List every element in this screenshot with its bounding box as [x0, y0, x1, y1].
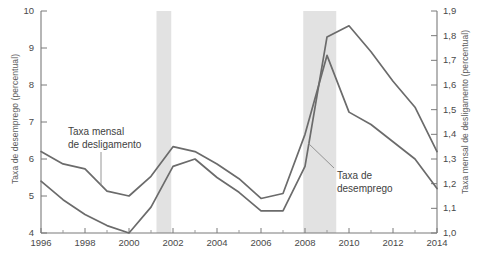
y-axis-left-tick-label: 6: [12, 153, 34, 164]
annotation-separation-rate-line2: de desligamento: [68, 139, 141, 152]
annotation-separation-rate-line1: Taxa mensal: [68, 126, 141, 139]
x-axis-tick-label: 2006: [241, 237, 281, 248]
y-axis-right-tick-label: 1,9: [443, 5, 469, 16]
x-axis-tick-label: 2008: [285, 237, 325, 248]
recession-2001-band: [157, 11, 172, 233]
y-axis-left-tick-label: 7: [12, 116, 34, 127]
x-axis-tick-label: 2012: [373, 237, 413, 248]
y-axis-left-tick-label: 5: [12, 190, 34, 201]
y-axis-right-tick-label: 1,1: [443, 202, 469, 213]
x-axis-tick-label: 2010: [329, 237, 369, 248]
annotation-unemployment-rate: Taxa dedesemprego: [337, 170, 393, 195]
annotation-unemployment-rate-line1: Taxa de: [337, 170, 393, 183]
x-axis-tick-label: 1998: [65, 237, 105, 248]
annotation-separation-rate: Taxa mensalde desligamento: [68, 126, 141, 151]
annotation-unemployment-rate-line2: desemprego: [337, 183, 393, 196]
chart-figure: Taxa de desemprego (percentual) Taxa men…: [0, 0, 480, 256]
x-axis-tick-label: 2000: [109, 237, 149, 248]
y-axis-left-tick-label: 10: [12, 5, 34, 16]
y-axis-right-tick-label: 1,8: [443, 30, 469, 41]
x-axis-tick-label: 2002: [153, 237, 193, 248]
y-axis-right-tick-label: 1,5: [443, 104, 469, 115]
y-axis-right-tick-label: 1,7: [443, 54, 469, 65]
x-axis-tick-label: 2014: [417, 237, 457, 248]
y-axis-right-tick-label: 1,3: [443, 153, 469, 164]
y-axis-right-tick-label: 1,2: [443, 178, 469, 189]
y-axis-left-tick-label: 8: [12, 79, 34, 90]
x-axis-tick-label: 1996: [21, 237, 61, 248]
y-axis-right-tick-label: 1,4: [443, 128, 469, 139]
y-axis-right-tick-label: 1,6: [443, 79, 469, 90]
y-axis-left-tick-label: 9: [12, 42, 34, 53]
x-axis-tick-label: 2004: [197, 237, 237, 248]
